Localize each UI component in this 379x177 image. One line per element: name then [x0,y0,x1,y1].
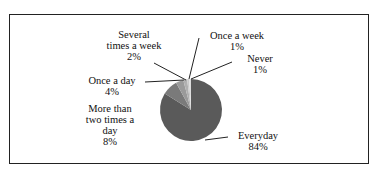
label-several-times-a-week: Several times a week 2% [99,29,169,62]
label-name-line3: day [80,125,140,136]
label-never: Never 1% [240,53,280,75]
label-pct: 8% [80,136,140,147]
pie-slices [160,79,222,141]
label-more-than-two-times-a-day: More than two times a day 8% [80,103,140,147]
pie-chart [0,0,379,177]
label-pct: 4% [84,86,140,97]
label-name-line2: two times a [80,114,140,125]
label-everyday: Everyday 84% [230,130,286,152]
label-once-a-day: Once a day 4% [84,75,140,97]
label-name-line1: Several [99,29,169,40]
label-name: Once a week [202,30,272,41]
label-once-a-week: Once a week 1% [202,30,272,52]
label-pct: 2% [99,51,169,62]
label-name: Everyday [230,130,286,141]
label-pct: 1% [240,64,280,75]
label-pct: 84% [230,141,286,152]
label-pct: 1% [202,41,272,52]
label-name-line2: times a week [99,40,169,51]
label-name: Never [240,53,280,64]
label-name-line1: More than [80,103,140,114]
label-name: Once a day [84,75,140,86]
